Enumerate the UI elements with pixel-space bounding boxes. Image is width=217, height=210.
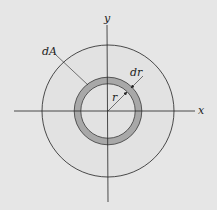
y-axis-label: y [103, 12, 111, 25]
polar-moment-diagram: y x dA r dr [0, 0, 217, 210]
radius-label: r [112, 91, 118, 104]
x-axis-label: x [198, 104, 205, 117]
da-label: dA [42, 45, 57, 58]
dr-label: dr [130, 66, 143, 79]
